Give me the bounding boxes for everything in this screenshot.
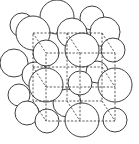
crystal-lattice-diagram	[0, 0, 139, 144]
atom-sphere	[65, 103, 99, 137]
atoms-group	[0, 0, 132, 137]
atom-sphere	[35, 109, 59, 133]
